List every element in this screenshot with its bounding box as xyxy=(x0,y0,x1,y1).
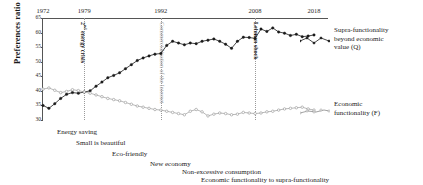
data-point xyxy=(236,40,239,43)
data-point xyxy=(71,91,74,94)
legend-label-supra-functionality: Supra-functionality beyond economic valu… xyxy=(334,26,388,52)
data-point xyxy=(124,67,127,70)
data-point xyxy=(283,108,286,111)
data-point xyxy=(207,39,210,42)
data-point xyxy=(54,102,57,105)
data-point xyxy=(254,112,257,115)
annotation-energy-saving: Energy saving xyxy=(57,128,97,136)
data-point xyxy=(59,91,62,94)
data-point xyxy=(230,47,233,50)
data-point xyxy=(266,30,269,33)
data-point xyxy=(160,52,163,55)
data-point xyxy=(165,44,168,47)
data-point xyxy=(142,106,145,109)
data-point xyxy=(148,55,151,58)
data-point xyxy=(242,36,245,39)
data-point xyxy=(118,100,121,103)
data-point xyxy=(65,93,68,96)
data-point xyxy=(295,107,298,110)
data-point xyxy=(207,115,210,118)
plot-area: 6560555045403530 19721979199220082018 2n… xyxy=(42,18,313,120)
x-tick-label: 1972 xyxy=(37,7,50,14)
data-point xyxy=(260,112,263,115)
legend-supra-line1: Supra-functionality xyxy=(334,26,388,35)
legend-label-economic-functionality: Economic functionality (F) xyxy=(334,100,380,117)
data-point xyxy=(283,32,286,35)
annotation-eco-friendly: Eco-friendly xyxy=(112,150,147,158)
data-point xyxy=(136,105,139,108)
data-point xyxy=(195,108,198,111)
data-point xyxy=(112,74,115,77)
data-point xyxy=(295,33,298,36)
series-line xyxy=(43,28,314,108)
legend-econ-line1: Economic xyxy=(334,100,380,109)
data-point xyxy=(130,63,133,66)
data-point xyxy=(289,34,292,37)
data-point xyxy=(101,95,104,98)
data-point xyxy=(236,113,239,116)
legend-marker xyxy=(300,103,330,113)
data-point xyxy=(272,110,275,113)
x-tick-label: 2008 xyxy=(249,7,262,14)
data-point xyxy=(165,110,168,113)
data-point xyxy=(89,92,92,95)
x-tick-label: 2018 xyxy=(308,7,321,14)
data-point xyxy=(183,44,186,47)
data-point xyxy=(71,88,74,91)
data-point xyxy=(77,89,80,92)
data-point xyxy=(130,103,133,106)
data-point xyxy=(154,53,157,56)
data-point xyxy=(260,28,263,31)
data-point xyxy=(183,114,186,117)
data-point xyxy=(289,107,292,110)
data-point xyxy=(95,85,98,88)
data-point xyxy=(213,38,216,41)
data-point xyxy=(48,87,51,90)
annotation-new-economy: New economy xyxy=(150,160,191,168)
data-point xyxy=(177,42,180,45)
data-point xyxy=(107,76,110,79)
data-point xyxy=(248,112,251,115)
data-point xyxy=(171,40,174,43)
data-point xyxy=(42,88,45,91)
data-point xyxy=(277,109,280,112)
data-point xyxy=(230,114,233,117)
data-point xyxy=(213,113,216,116)
data-point xyxy=(218,112,221,115)
data-point xyxy=(160,109,163,112)
data-point xyxy=(148,107,151,110)
data-point xyxy=(101,81,104,84)
legend-marker xyxy=(300,32,330,42)
data-point xyxy=(118,72,121,75)
data-point xyxy=(189,110,192,113)
data-point xyxy=(201,40,204,43)
data-point xyxy=(112,98,115,101)
data-point xyxy=(83,91,86,94)
data-point xyxy=(154,108,157,111)
data-point xyxy=(136,59,139,62)
data-point xyxy=(266,111,269,114)
data-point xyxy=(95,94,98,97)
data-point xyxy=(189,42,192,45)
data-point xyxy=(54,89,57,92)
legend-econ-line2: functionality (F) xyxy=(334,109,380,118)
data-series-svg xyxy=(43,18,314,120)
y-axis-title: Preferences ratio (%) xyxy=(12,0,22,80)
data-point xyxy=(59,97,62,100)
data-point xyxy=(248,36,251,39)
legend-supra-line2: beyond economic xyxy=(334,35,388,44)
x-tick-label: 1992 xyxy=(154,7,167,14)
data-point xyxy=(171,111,174,114)
data-point xyxy=(142,57,145,60)
data-point xyxy=(224,43,227,46)
legend-supra-line3: value (Q) xyxy=(334,43,388,52)
data-point xyxy=(107,97,110,100)
data-point xyxy=(201,111,204,114)
data-point xyxy=(124,101,127,104)
data-point xyxy=(277,31,280,33)
data-point xyxy=(254,37,257,40)
data-point xyxy=(42,104,45,107)
chart-root: Preferences ratio (%) 6560555045403530 1… xyxy=(0,0,423,185)
x-tick-label: 1979 xyxy=(78,7,91,14)
data-point xyxy=(48,107,51,110)
